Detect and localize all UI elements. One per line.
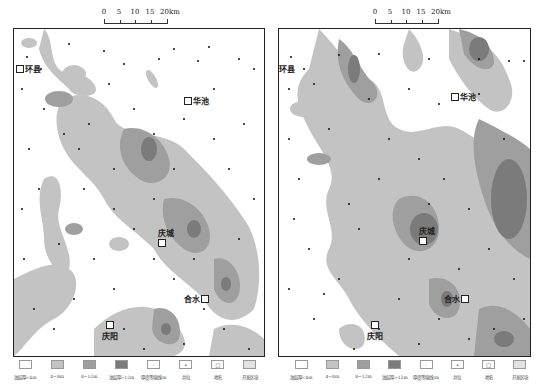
place-square-icon: □ (482, 360, 495, 369)
town-square-icon (184, 97, 192, 105)
legend-label: 地名 (485, 374, 493, 380)
legend-item: 开发区块 (505, 360, 535, 388)
contour-layer (279, 29, 530, 356)
legend-swatch (388, 360, 401, 369)
scale-tick: 0 (373, 8, 377, 16)
legend-left: 油层厚<4m 4~8m 8~12m 油层厚>12m · 厚度等值线/m • 井位… (10, 360, 265, 388)
thickness-map-right: 环县 华池 庆城 合水 庆阳 (278, 28, 531, 357)
scale-bar: 0 5 10 15 20km (375, 8, 455, 28)
contour-line-icon: · (147, 360, 160, 369)
town-label: 合水 (444, 293, 460, 304)
scale-ticks: 0 5 10 15 20km (104, 8, 184, 18)
thickness-map-left: 环县 华池 庆城 合水 庆阳 (13, 28, 265, 357)
legend-item: 8~12m (74, 360, 104, 388)
legend-label: 井位 (182, 374, 190, 380)
scale-tick: 10 (402, 8, 411, 16)
legend-label: 8~12m (81, 374, 98, 379)
scale-tick: 5 (388, 8, 392, 16)
town-label: 环县 (279, 63, 295, 74)
legend-label: 4~8m (50, 374, 64, 379)
place-square-icon: □ (211, 360, 224, 369)
legend-swatch (51, 360, 64, 369)
scale-tick: 15 (146, 8, 155, 16)
legend-item: • 井位 (171, 360, 201, 388)
town-marker: 环县 (16, 63, 41, 74)
town-marker: 华池 (451, 91, 476, 102)
town-marker: 环县 (278, 63, 295, 74)
legend-right: 油层厚<4m 4~8m 8~12m 油层厚>12m · 厚度等值线/m • 井位… (286, 360, 535, 388)
legend-item: 油层厚>12m (106, 360, 136, 388)
legend-item: 4~8m (42, 360, 72, 388)
legend-swatch (115, 360, 128, 369)
legend-label: 油层厚>12m (382, 374, 408, 380)
legend-label: 油层厚<4m (290, 374, 313, 380)
legend-item: 油层厚<4m (10, 360, 40, 388)
town-marker: 庆城 (158, 227, 174, 247)
legend-item: 4~8m (317, 360, 347, 388)
legend-label: 井位 (453, 374, 461, 380)
legend-label: 厚度等值线/m (413, 374, 439, 380)
contour-line-icon: · (420, 360, 433, 369)
legend-item: 油层厚>12m (380, 360, 410, 388)
legend-item: · 厚度等值线/m (139, 360, 169, 388)
town-label: 庆阳 (102, 330, 118, 341)
scale-tick: 15 (417, 8, 426, 16)
legend-label: 开发区块 (242, 374, 258, 380)
town-square-icon (371, 321, 379, 329)
legend-label: 油层厚<4m (14, 374, 37, 380)
legend-swatch (357, 360, 370, 369)
well-dot-icon: • (179, 360, 192, 369)
legend-label: 8~12m (355, 374, 372, 379)
town-square-icon (451, 93, 459, 101)
scale-bar: 0 5 10 15 20km (104, 8, 184, 28)
scale-ticks: 0 5 10 15 20km (375, 8, 455, 18)
legend-item: 8~12m (349, 360, 379, 388)
scale-tick: 5 (117, 8, 121, 16)
town-label: 合水 (184, 293, 200, 304)
town-square-icon (201, 295, 209, 303)
town-label: 庆阳 (367, 330, 383, 341)
legend-swatch (83, 360, 96, 369)
scale-tick: 20km (431, 8, 451, 16)
town-marker: 华池 (184, 95, 209, 106)
scale-line (375, 19, 439, 24)
scale-line (104, 19, 168, 24)
legend-label: 厚度等值线/m (141, 374, 167, 380)
well-dot-icon: • (451, 360, 464, 369)
town-marker: 庆城 (419, 225, 435, 245)
scale-tick: 10 (131, 8, 140, 16)
town-label: 华池 (193, 95, 209, 106)
contour-layer (14, 29, 264, 356)
legend-label: 地名 (214, 374, 222, 380)
legend-swatch (19, 360, 32, 369)
legend-item: □ 地名 (474, 360, 504, 388)
town-marker: 合水 (444, 293, 469, 304)
legend-label: 4~8m (325, 374, 339, 379)
legend-item: 开发区块 (235, 360, 265, 388)
legend-item: □ 地名 (203, 360, 233, 388)
town-square-icon (106, 321, 114, 329)
legend-item: • 井位 (442, 360, 472, 388)
legend-item: 油层厚<4m (286, 360, 316, 388)
scale-tick: 20km (160, 8, 180, 16)
map-panel-left: 0 5 10 15 20km (0, 0, 269, 391)
town-square-icon (16, 65, 24, 73)
town-marker: 庆阳 (102, 321, 118, 341)
town-marker: 庆阳 (367, 321, 383, 341)
legend-swatch (326, 360, 339, 369)
town-label: 环县 (25, 63, 41, 74)
map-panel-right: 0 5 10 15 20km (270, 0, 539, 391)
town-marker: 合水 (184, 293, 209, 304)
town-label: 庆城 (419, 225, 435, 236)
town-square-icon (419, 237, 427, 245)
town-square-icon (461, 295, 469, 303)
scale-tick: 0 (102, 8, 106, 16)
legend-label: 开发区块 (512, 374, 528, 380)
legend-item: · 厚度等值线/m (411, 360, 441, 388)
legend-label: 油层厚>12m (109, 374, 135, 380)
town-label: 庆城 (158, 227, 174, 238)
town-square-icon (158, 239, 166, 247)
dev-block-icon (243, 360, 256, 369)
dev-block-icon (513, 360, 526, 369)
legend-swatch (295, 360, 308, 369)
